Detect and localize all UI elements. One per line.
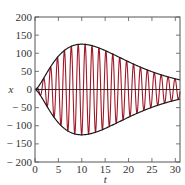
chart: 051015202530200150100500− 50− 100− 150− … (0, 0, 185, 185)
x-tick-label: 25 (146, 163, 158, 175)
y-tick-label: 50 (21, 65, 33, 77)
y-tick-label: − 50 (12, 101, 32, 113)
y-tick-label: − 200 (7, 156, 33, 168)
y-axis-label: x (8, 83, 14, 95)
y-tick-label: 200 (16, 11, 33, 23)
y-tick-label: − 100 (7, 119, 33, 131)
x-tick-label: 20 (123, 163, 135, 175)
y-tick-label: 100 (16, 47, 33, 59)
x-tick-label: 5 (56, 163, 62, 175)
y-tick-label: − 150 (7, 137, 33, 149)
y-tick-label: 150 (16, 29, 33, 41)
x-tick-label: 0 (32, 163, 38, 175)
x-tick-label: 30 (170, 163, 182, 175)
y-tick-label: 0 (27, 83, 33, 95)
x-tick-label: 10 (76, 163, 88, 175)
